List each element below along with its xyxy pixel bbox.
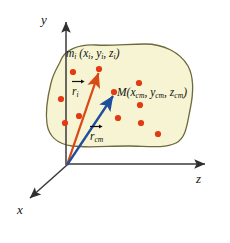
vector-arrow-overbar-icon: [72, 79, 85, 83]
com-coord-sep2: , z: [164, 86, 174, 98]
particle-dot: [70, 69, 76, 75]
com-coord-open: (x: [127, 86, 136, 98]
particle-coord-sep1: , y: [90, 47, 101, 59]
particle-dot: [115, 115, 121, 121]
particle-label: mi (xi, yi, zi): [66, 48, 120, 60]
particle-dot: [138, 120, 144, 126]
com-z-subscript: cm: [174, 91, 183, 100]
com-mass-symbol: M: [117, 86, 127, 98]
vector-arrow-overbar-icon: [90, 124, 103, 128]
com-coord-close: ): [183, 86, 187, 98]
particle-dot: [62, 120, 68, 126]
particle-coord-open: (x: [76, 47, 88, 59]
center-of-mass-label: M(xcm, ycm, zcm): [117, 87, 187, 99]
particle-coord-sep2: , z: [103, 47, 113, 59]
vector-r-cm-subscript: cm: [94, 135, 103, 144]
z-axis-label: z: [196, 172, 201, 185]
com-y-subscript: cm: [155, 91, 164, 100]
figure-container: y z x mi (xi, yi, zi) M(xcm, ycm, zcm) r…: [0, 0, 230, 243]
particle-dot: [96, 66, 102, 72]
x-axis-label: x: [17, 203, 23, 216]
center-of-mass-diagram: [0, 0, 230, 243]
particle-dot: [58, 96, 64, 102]
x-axis: [30, 165, 67, 198]
y-axis-label: y: [41, 13, 47, 26]
vector-r-cm-label: rcm: [90, 131, 103, 143]
particle-coord-close: ): [116, 47, 120, 59]
particle-dot: [155, 131, 161, 137]
particle-dot: [76, 113, 82, 119]
vector-r-i-label: ri: [72, 86, 79, 98]
particle-dot: [136, 80, 142, 86]
com-coord-sep1: , y: [144, 86, 155, 98]
vector-r-i-subscript: i: [76, 90, 78, 99]
particle-dot: [137, 102, 143, 108]
